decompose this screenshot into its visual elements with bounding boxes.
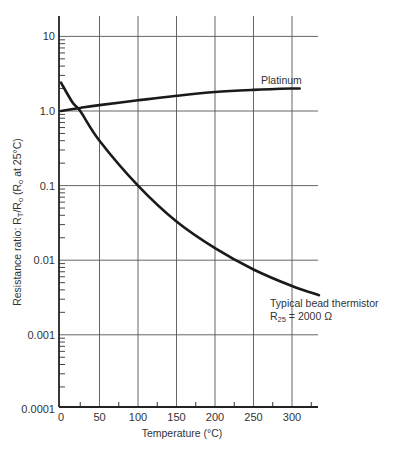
x-axis-title: Temperature (°C) <box>142 427 223 439</box>
x-tick-label: 300 <box>283 411 301 423</box>
y-tick-label: 0.0001 <box>21 403 55 415</box>
x-tick-label: 200 <box>206 411 224 423</box>
chart: 050100150200250300101.00.10.010.0010.000… <box>0 0 395 451</box>
platinum-curve <box>61 88 300 111</box>
y-tick-label: 0.1 <box>40 180 55 192</box>
x-tick-label: 250 <box>244 411 262 423</box>
x-tick-label: 50 <box>93 411 105 423</box>
x-tick-label: 0 <box>58 411 64 423</box>
y-tick-label: 0.001 <box>27 329 55 341</box>
thermistor-label: Typical bead thermistor <box>270 297 379 309</box>
x-tick-label: 150 <box>167 411 185 423</box>
y-axis-title: Resistance ratio: RT/Ro (Ro at 25°C) <box>11 138 25 306</box>
y-tick-label: 0.01 <box>34 254 55 266</box>
x-tick-label: 100 <box>129 411 147 423</box>
platinum-label: Platinum <box>261 74 302 86</box>
y-tick-label: 10 <box>43 30 55 42</box>
thermistor-r25-label: R25 = 2000 Ω <box>270 310 332 324</box>
y-tick-label: 1.0 <box>40 105 55 117</box>
